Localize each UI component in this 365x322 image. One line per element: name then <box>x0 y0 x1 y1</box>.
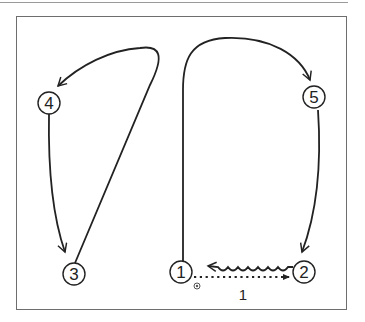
player-node-5: 5 <box>303 86 325 108</box>
pass-number-label: 1 <box>239 286 247 303</box>
run-path-1-to-5 <box>183 38 310 261</box>
player-node-3: 3 <box>63 263 85 285</box>
player-node-4: 4 <box>38 92 60 114</box>
player-node-2: 2 <box>293 261 315 283</box>
run-path-4-to-3 <box>49 114 65 252</box>
node-label: 1 <box>176 263 185 282</box>
node-label: 4 <box>44 94 53 113</box>
node-label: 2 <box>299 263 308 282</box>
node-label: 5 <box>309 88 318 107</box>
node-label: 3 <box>69 265 78 284</box>
soccer-ball-icon <box>194 283 200 289</box>
player-node-1: 1 <box>170 261 192 283</box>
run-path-3-to-4 <box>58 47 159 263</box>
dribble-path-2-to-1 <box>208 266 293 271</box>
run-path-5-to-2 <box>302 110 319 252</box>
drill-diagram: 1 2 3 4 5 1 <box>0 0 365 322</box>
